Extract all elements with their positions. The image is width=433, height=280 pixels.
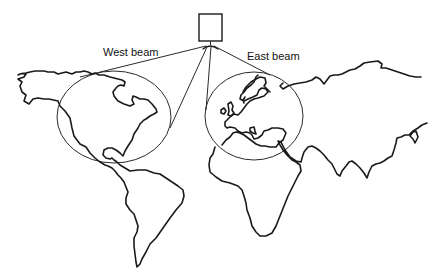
europe-outline <box>222 75 286 147</box>
beam-rays <box>80 46 270 128</box>
west-beam-label: West beam <box>103 46 158 58</box>
east-beam-label: East beam <box>247 50 300 62</box>
world-map-diagram <box>0 0 433 280</box>
americas-outline <box>18 71 184 267</box>
ireland-outline <box>221 108 226 114</box>
eurasia-africa-outline <box>209 123 427 236</box>
great-britain-outline <box>228 102 234 116</box>
siberia-coast-outline <box>280 61 421 89</box>
satellite-icon <box>199 14 222 49</box>
